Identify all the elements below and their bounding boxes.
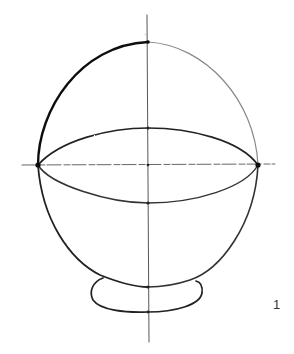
bowl-foot [91,278,202,312]
rim-front-point [146,201,149,204]
dome-right-arc [148,42,258,165]
right-equator-point [255,162,260,167]
rim-back-point [147,127,150,130]
bowl-right-side [148,165,258,287]
dome-left-arc [38,42,148,165]
sketch-canvas [0,0,294,354]
vertical-axis [147,15,149,342]
center-point [147,164,150,167]
left-equator-point [35,162,40,167]
foot-bottom-point [147,311,150,314]
bowl-left-side [38,165,148,287]
top-point [146,40,150,44]
figure-number: 1 [273,297,280,312]
bowl-bottom-point [146,285,149,288]
